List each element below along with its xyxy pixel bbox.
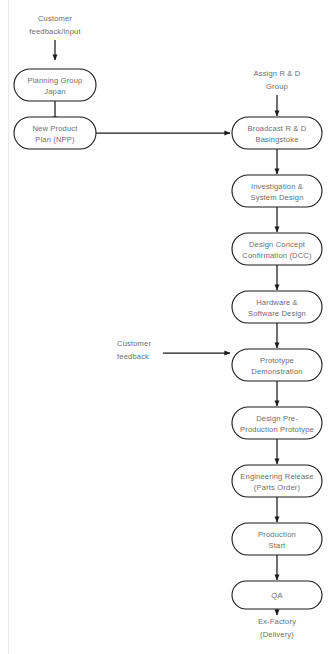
planning-group-japan-shape[interactable] [14, 69, 96, 101]
planning-group-japan-line2: Japan [44, 87, 65, 96]
engineering-release-shape[interactable] [232, 465, 322, 497]
customer-feedback-input-line2: feedback/input [29, 27, 81, 36]
broadcast-rd-basingstoke-line2: Basingstoke [255, 135, 298, 144]
customer-feedback-line1: Customer [117, 339, 151, 348]
new-product-plan-line1: New Product [32, 124, 78, 133]
ex-factory-line2: (Delivery) [260, 630, 294, 639]
production-start-shape[interactable] [232, 523, 322, 555]
assign-rd-group-line2: Group [266, 82, 288, 91]
node-investigation-system-design[interactable]: Investigation & System Design [232, 175, 322, 207]
ex-factory-line1: Ex-Factory [258, 617, 296, 626]
production-start-line2: Start [269, 541, 287, 550]
node-production-start[interactable]: Production Start [232, 523, 322, 555]
production-start-line1: Production [258, 530, 296, 539]
node-new-product-plan[interactable]: New Product Plan (NPP) [14, 117, 96, 149]
flowchart-page: Customer feedback/input Assign R & D Gro… [0, 0, 335, 654]
label-customer-feedback-input: Customer feedback/input [29, 14, 81, 36]
engineering-release-line1: Engineering Release [240, 472, 313, 481]
broadcast-rd-basingstoke-shape[interactable] [232, 117, 322, 149]
design-concept-confirmation-line2: Confirmation (DCC) [242, 251, 312, 260]
customer-feedback-input-line1: Customer [38, 14, 72, 23]
hardware-software-design-line2: Software Design [248, 309, 306, 318]
assign-rd-group-line1: Assign R & D [254, 69, 301, 78]
design-pre-production-prototype-line1: Design Pre- [256, 414, 298, 423]
hardware-software-design-shape[interactable] [232, 291, 322, 323]
design-pre-production-prototype-line2: Production Prototype [240, 425, 314, 434]
node-engineering-release[interactable]: Engineering Release (Parts Order) [232, 465, 322, 497]
investigation-system-design-line2: System Design [250, 193, 303, 202]
flowchart-canvas: Customer feedback/input Assign R & D Gro… [0, 0, 335, 654]
node-qa[interactable]: QA [232, 581, 322, 609]
label-assign-rd-group: Assign R & D Group [254, 69, 301, 91]
new-product-plan-shape[interactable] [14, 117, 96, 149]
node-broadcast-rd-basingstoke[interactable]: Broadcast R & D Basingstoke [232, 117, 322, 149]
node-prototype-demonstration[interactable]: Prototype Demonstration [232, 349, 322, 381]
prototype-demonstration-line2: Demonstration [251, 367, 302, 376]
investigation-system-design-shape[interactable] [232, 175, 322, 207]
design-concept-confirmation-line1: Design Concept [249, 240, 306, 249]
design-concept-confirmation-shape[interactable] [232, 233, 322, 265]
prototype-demonstration-line1: Prototype [260, 356, 294, 365]
broadcast-rd-basingstoke-line1: Broadcast R & D [248, 124, 307, 133]
label-customer-feedback: Customer feedback [117, 339, 151, 361]
engineering-release-line2: (Parts Order) [254, 483, 301, 492]
node-hardware-software-design[interactable]: Hardware & Software Design [232, 291, 322, 323]
node-design-concept-confirmation[interactable]: Design Concept Confirmation (DCC) [232, 233, 322, 265]
label-ex-factory-delivery: Ex-Factory (Delivery) [258, 617, 296, 639]
design-pre-production-prototype-shape[interactable] [232, 407, 322, 439]
investigation-system-design-line1: Investigation & [251, 182, 303, 191]
node-design-pre-production-prototype[interactable]: Design Pre- Production Prototype [232, 407, 322, 439]
prototype-demonstration-shape[interactable] [232, 349, 322, 381]
customer-feedback-line2: feedback [117, 352, 149, 361]
hardware-software-design-line1: Hardware & [256, 298, 298, 307]
qa-line1: QA [271, 591, 283, 600]
new-product-plan-line2: Plan (NPP) [35, 135, 75, 144]
node-planning-group-japan[interactable]: Planning Group Japan [14, 69, 96, 101]
planning-group-japan-line1: Planning Group [28, 76, 83, 85]
